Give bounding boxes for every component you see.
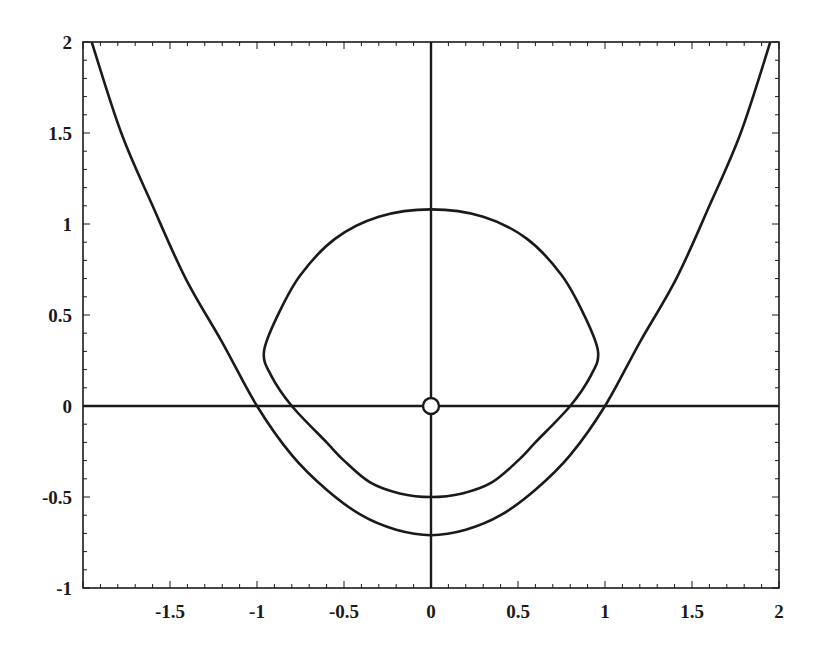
x-tick-labels: -1.5-1-0.500.511.52 bbox=[155, 601, 784, 622]
x-tick-label: -1 bbox=[249, 601, 265, 622]
y-tick-label: -1 bbox=[56, 578, 72, 599]
annotations bbox=[423, 398, 439, 414]
x-tick-label: -1.5 bbox=[155, 601, 185, 622]
y-tick-label: 1.5 bbox=[48, 123, 72, 144]
origin-marker bbox=[423, 398, 439, 414]
x-tick-label: 1.5 bbox=[680, 601, 704, 622]
y-tick-label: 0.5 bbox=[48, 305, 72, 326]
x-tick-label: 0 bbox=[426, 601, 436, 622]
x-tick-label: 0.5 bbox=[506, 601, 530, 622]
zero-axes bbox=[83, 42, 779, 588]
y-tick-label: 2 bbox=[63, 32, 73, 53]
x-tick-label: 2 bbox=[774, 601, 784, 622]
chart-canvas: -1.5-1-0.500.511.52 21.510.50-0.5-1 bbox=[0, 0, 821, 649]
x-tick-label: 1 bbox=[600, 601, 610, 622]
x-tick-label: -0.5 bbox=[329, 601, 359, 622]
y-tick-label: 1 bbox=[63, 214, 73, 235]
y-tick-labels: 21.510.50-0.5-1 bbox=[42, 32, 72, 599]
y-tick-label: 0 bbox=[63, 396, 73, 417]
y-tick-label: -0.5 bbox=[42, 487, 72, 508]
